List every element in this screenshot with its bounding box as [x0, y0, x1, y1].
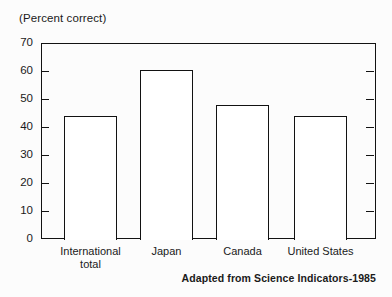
- y-tick-label-20: 20: [7, 177, 33, 188]
- x-axis-label-japan: Japan: [131, 245, 202, 258]
- y-tick-label-50: 50: [7, 93, 33, 104]
- x-axis-label-united-states: United States: [280, 245, 361, 258]
- y-axis-unit-label: (Percent correct): [19, 12, 106, 24]
- x-axis-label-international-total: International total: [50, 245, 131, 270]
- y-tick-label-0: 0: [7, 233, 33, 244]
- y-tick-label-10: 10: [7, 205, 33, 216]
- y-tick-label-40: 40: [7, 121, 33, 132]
- y-tick-label-70: 70: [7, 37, 33, 48]
- source-attribution: Adapted from Science Indicators-1985: [182, 272, 376, 284]
- x-axis-label-canada: Canada: [207, 245, 278, 258]
- y-tick-label-30: 30: [7, 149, 33, 160]
- bar-japan: [140, 70, 193, 240]
- y-tick-label-60: 60: [7, 65, 33, 76]
- bar-united-states: [294, 116, 347, 240]
- bar-international-total: [64, 116, 117, 240]
- bar-canada: [216, 105, 269, 240]
- bar-chart-figure: (Percent correct) 70 60 50 40 30 20 10 0…: [0, 0, 392, 297]
